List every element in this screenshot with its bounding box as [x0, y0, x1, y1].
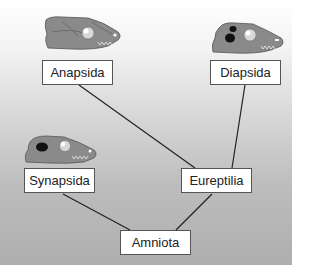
synapsid-skull-icon [24, 132, 102, 166]
node-label: Eureptilia [189, 173, 243, 188]
anapsid-skull-icon [42, 14, 124, 54]
node-label: Anapsida [50, 65, 104, 80]
node-anapsida: Anapsida [42, 60, 113, 85]
node-label: Synapsida [29, 173, 90, 188]
node-eureptilia: Eureptilia [181, 168, 252, 193]
node-synapsida: Synapsida [24, 168, 95, 193]
edge-amniota-eureptilia [176, 194, 212, 230]
edge-eureptilia-diapsida [232, 85, 245, 168]
node-label: Amniota [132, 235, 180, 250]
node-diapsida: Diapsida [210, 60, 281, 85]
diapsid-skull-icon [209, 20, 287, 56]
node-label: Diapsida [220, 65, 271, 80]
edge-amniota-synapsida [63, 194, 130, 230]
node-amniota: Amniota [120, 230, 191, 255]
